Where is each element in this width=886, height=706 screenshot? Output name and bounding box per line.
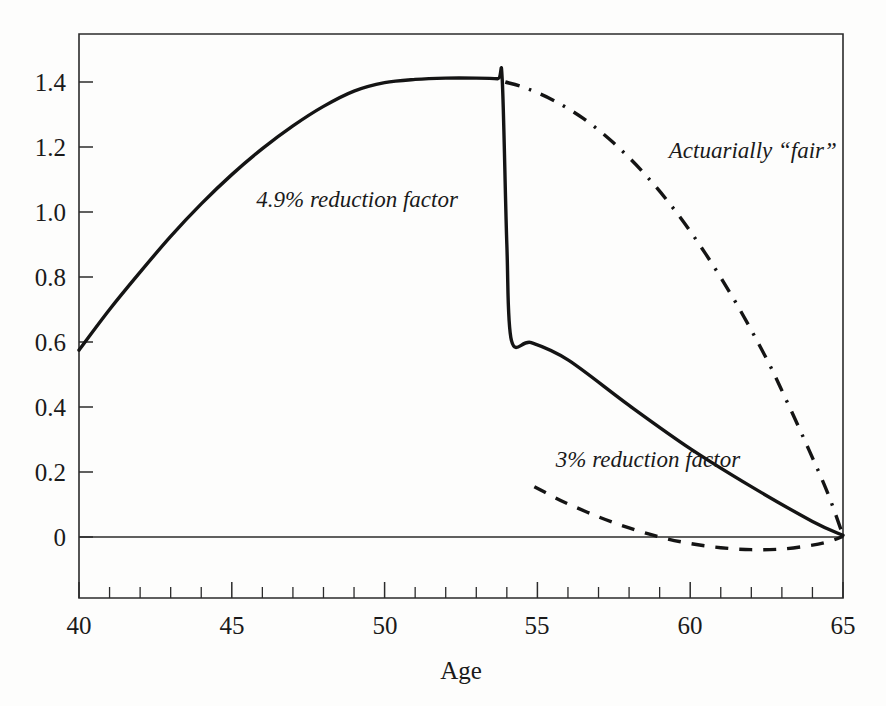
chart-canvas: 1.4 1.2 1.0 0.8 0.6 0.4 0.2 0 40 45 50 5… [0,0,886,706]
annotation-49-percent-reduction-factor: 4.9% reduction factor [256,187,459,212]
y-tick-label-1.0: 1.0 [35,199,66,226]
annotation-3-percent-reduction-factor: 3% reduction factor [555,447,741,472]
x-tick-label-50: 50 [373,612,398,639]
x-tick-label-60: 60 [678,612,703,639]
frame-border [79,34,843,598]
chart-figure: 1.4 1.2 1.0 0.8 0.6 0.4 0.2 0 40 45 50 5… [0,0,886,706]
y-axis-labels: 1.4 1.2 1.0 0.8 0.6 0.4 0.2 0 [35,69,67,551]
x-tick-label-45: 45 [220,612,245,639]
plot-frame [79,34,843,598]
x-axis-labels: 40 45 50 55 60 65 [67,612,856,639]
x-tick-label-40: 40 [67,612,92,639]
annotation-actuarially-fair: Actuarially “fair” [667,138,837,163]
x-tick-label-55: 55 [525,612,550,639]
y-tick-label-0.4: 0.4 [35,394,67,421]
x-axis-title: Age [440,657,482,684]
y-tick-label-0.8: 0.8 [35,264,66,291]
y-tick-label-0.2: 0.2 [35,459,66,486]
y-axis-ticks [79,82,93,537]
y-tick-label-1.2: 1.2 [35,134,66,161]
series-line-3-percent-reduction-factor [534,487,843,550]
x-tick-label-65: 65 [831,612,856,639]
chart-annotations: 4.9% reduction factor Actuarially “fair”… [256,138,837,472]
y-tick-label-0: 0 [54,524,67,551]
y-tick-label-1.4: 1.4 [35,69,67,96]
x-axis-ticks [79,582,843,598]
y-tick-label-0.6: 0.6 [35,329,66,356]
